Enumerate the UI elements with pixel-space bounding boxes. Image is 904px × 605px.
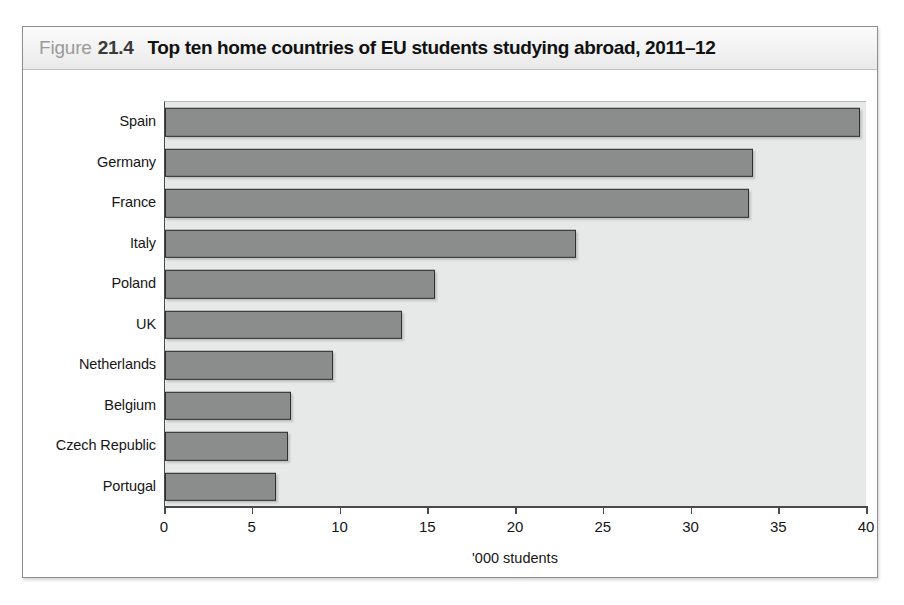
- figure-container: Figure 21.4 Top ten home countries of EU…: [22, 26, 878, 578]
- category-label-uk: UK: [23, 316, 156, 332]
- category-label-belgium: Belgium: [23, 397, 156, 413]
- bar-row: [165, 102, 866, 143]
- x-tick-label-0: 0: [160, 518, 168, 535]
- bar-portugal: [165, 473, 276, 501]
- x-tick-label-30: 30: [682, 518, 699, 535]
- x-tick-40: [866, 506, 868, 514]
- x-tick-label-35: 35: [770, 518, 787, 535]
- category-label-poland: Poland: [23, 275, 156, 291]
- x-tick-30: [691, 506, 693, 514]
- x-tick-0: [164, 506, 166, 514]
- bar-row: [165, 386, 866, 427]
- bar-poland: [165, 270, 435, 298]
- x-tick-20: [515, 506, 517, 514]
- figure-label-word: Figure: [39, 37, 92, 59]
- bar-row: [165, 264, 866, 305]
- bar-france: [165, 189, 749, 217]
- bar-belgium: [165, 392, 291, 420]
- x-tick-10: [340, 506, 342, 514]
- category-axis-labels: SpainGermanyFranceItalyPolandUKNetherlan…: [23, 101, 156, 506]
- bar-row: [165, 305, 866, 346]
- x-tick-25: [603, 506, 605, 514]
- category-label-italy: Italy: [23, 235, 156, 251]
- bar-row: [165, 467, 866, 508]
- x-tick-label-20: 20: [507, 518, 524, 535]
- x-tick-label-5: 5: [248, 518, 256, 535]
- bar-row: [165, 224, 866, 265]
- figure-title: Top ten home countries of EU students st…: [147, 37, 715, 59]
- bar-row: [165, 143, 866, 184]
- x-tick-label-25: 25: [594, 518, 611, 535]
- figure-title-bar: Figure 21.4 Top ten home countries of EU…: [23, 27, 877, 70]
- x-tick-label-15: 15: [419, 518, 436, 535]
- bar-uk: [165, 311, 402, 339]
- bar-czech-republic: [165, 432, 288, 460]
- figure-number: 21.4: [98, 37, 134, 59]
- x-tick-label-40: 40: [858, 518, 875, 535]
- bar-spain: [165, 108, 860, 136]
- chart-body: SpainGermanyFranceItalyPolandUKNetherlan…: [23, 70, 877, 577]
- x-tick-label-10: 10: [331, 518, 348, 535]
- x-tick-35: [778, 506, 780, 514]
- category-label-spain: Spain: [23, 113, 156, 129]
- category-label-portugal: Portugal: [23, 478, 156, 494]
- category-label-czech-republic: Czech Republic: [23, 437, 156, 453]
- bar-row: [165, 183, 866, 224]
- category-label-netherlands: Netherlands: [23, 356, 156, 372]
- bar-row: [165, 345, 866, 386]
- category-label-france: France: [23, 194, 156, 210]
- x-tick-15: [427, 506, 429, 514]
- bar-germany: [165, 149, 753, 177]
- bar-row: [165, 426, 866, 467]
- bar-italy: [165, 230, 576, 258]
- x-axis-title: '000 students: [164, 550, 866, 566]
- x-tick-5: [252, 506, 254, 514]
- plot-area: [164, 101, 866, 506]
- category-label-germany: Germany: [23, 154, 156, 170]
- bar-netherlands: [165, 351, 333, 379]
